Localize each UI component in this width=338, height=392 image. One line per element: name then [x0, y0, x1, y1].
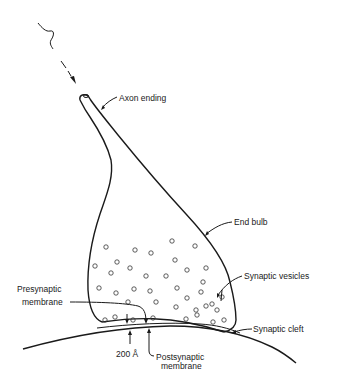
- postsynaptic-membrane-label-line2: membrane: [161, 361, 202, 371]
- axon-left-outline: [80, 100, 112, 322]
- synapse-diagram: Axon ending End bulb Synaptic vesicles S…: [0, 0, 338, 392]
- synaptic-vesicles: [93, 239, 226, 324]
- synaptic-vesicles-label: Synaptic vesicles: [244, 271, 309, 281]
- cleft-width-arrowhead-bottom-icon: [128, 330, 132, 335]
- axon-ending-leader: [102, 97, 117, 108]
- end-bulb-leader: [206, 222, 232, 234]
- impulse-arrowhead-icon: [70, 76, 76, 84]
- postsynaptic-membrane-inner: [97, 323, 240, 333]
- impulse-squiggle-icon: [38, 23, 54, 49]
- postsynaptic-arrowhead-icon: [147, 328, 151, 333]
- axon-ending-label: Axon ending: [119, 93, 167, 103]
- end-bulb-label: End bulb: [234, 217, 268, 227]
- cleft-width-arrowhead-top-icon: [125, 319, 129, 324]
- postsynaptic-leader: [149, 330, 154, 356]
- synaptic-cleft-label: Synaptic cleft: [253, 324, 304, 334]
- end-bulb-right-outline: [90, 99, 236, 332]
- impulse-arrow-icon: [61, 61, 71, 76]
- presynaptic-membrane-label-line2: membrane: [22, 297, 63, 307]
- presynaptic-membrane-label-line1: Presynaptic: [17, 284, 62, 294]
- synaptic-cleft-leader: [234, 329, 252, 332]
- cleft-width-label: 200 Å: [116, 349, 139, 359]
